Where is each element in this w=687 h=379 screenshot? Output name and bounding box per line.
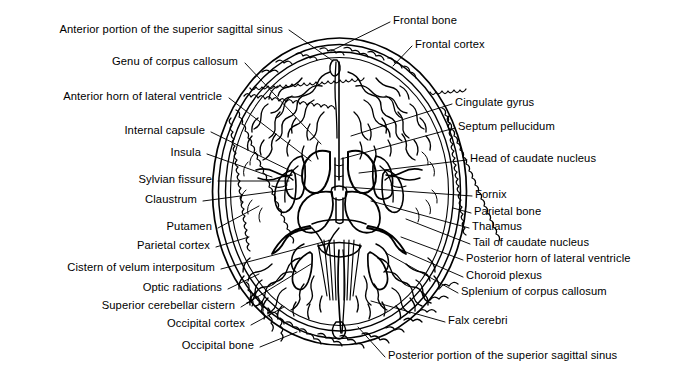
label-anterior-horn-of-lateral-ventricle: Anterior horn of lateral ventricle: [63, 90, 222, 102]
leader-choroid-plexus: [399, 249, 463, 277]
label-parietal-bone: Parietal bone: [474, 205, 541, 217]
label-putamen: Putamen: [167, 220, 212, 232]
label-anterior-portion-superior-sagittal-sinus: Anterior portion of the superior sagitta…: [59, 23, 283, 35]
label-claustrum: Claustrum: [145, 193, 197, 205]
label-frontal-bone: Frontal bone: [393, 14, 457, 26]
label-choroid-plexus: Choroid plexus: [466, 269, 542, 281]
temporal-gyri-right: [416, 152, 437, 222]
label-genu-of-corpus-callosum: Genu of corpus callosum: [112, 55, 238, 67]
label-superior-cerebellar-cistern: Superior cerebellar cistern: [102, 299, 235, 311]
frontal-gyri-right: [348, 72, 431, 162]
label-tail-of-caudate-nucleus: Tail of caudate nucleus: [473, 236, 589, 248]
leader-anterior-horn: [229, 98, 311, 161]
leader-occipital-bone: [260, 332, 297, 347]
figure-canvas: Anterior portion of the superior sagitta…: [0, 0, 687, 379]
label-cingulate-gyrus: Cingulate gyrus: [455, 96, 534, 108]
fornix: [331, 186, 347, 200]
label-sylvian-fissure: Sylvian fissure: [138, 173, 212, 185]
diploe-stipple: [229, 47, 499, 348]
label-occipital-cortex: Occipital cortex: [167, 317, 245, 329]
leader-parietal-bone: [453, 208, 471, 213]
superior-cerebellar-cistern-left: [272, 226, 311, 254]
label-posterior-horn-of-lateral-ventricle: Posterior horn of lateral ventricle: [466, 252, 631, 264]
label-thalamus: Thalamus: [472, 220, 522, 232]
label-posterior-portion-superior-sagittal-sinus: Posterior portion of the superior sagitt…: [388, 349, 617, 361]
label-septum-pellucidum: Septum pellucidum: [458, 120, 555, 132]
leader-claustrum: [203, 189, 293, 201]
label-occipital-bone: Occipital bone: [182, 339, 254, 351]
interhemispheric-anterior: [335, 62, 337, 138]
leader-lines: [203, 22, 472, 357]
label-parietal-cortex: Parietal cortex: [137, 239, 210, 251]
leader-septum-pellucidum: [341, 128, 455, 159]
label-fornix: Fornix: [475, 188, 507, 200]
label-head-of-caudate-nucleus: Head of caudate nucleus: [470, 152, 596, 164]
leader-tail-caudate: [406, 219, 470, 244]
label-frontal-cortex: Frontal cortex: [415, 38, 485, 50]
leader-thalamus: [371, 201, 469, 228]
label-cistern-of-velum-interpositum: Cistern of velum interpositum: [67, 261, 215, 273]
label-insula: Insula: [171, 146, 201, 158]
temporal-gyri-left: [241, 152, 262, 222]
occipital-gyri-left: [239, 258, 322, 319]
label-falx-cerebri: Falx cerebri: [448, 314, 508, 326]
label-internal-capsule: Internal capsule: [124, 124, 205, 136]
interhemispheric-posterior: [338, 250, 341, 333]
brain-cross-section-illustration: [0, 0, 687, 379]
leader-putamen: [218, 206, 259, 228]
label-optic-radiations: Optic radiations: [143, 281, 222, 293]
frontal-gyri-left: [248, 72, 331, 162]
label-splenium-of-corpus-callosum: Splenium of corpus callosum: [461, 285, 607, 297]
